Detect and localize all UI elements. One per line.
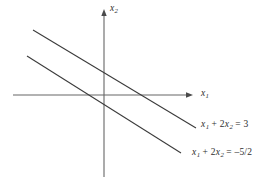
right-arrow-icon [186,92,193,97]
x2-axis-label: x2 [110,3,118,13]
up-arrow-icon [101,9,106,16]
eq-bottom-rhs: = –5/2 [224,147,252,157]
eq-top-lhs-var: x [201,119,205,129]
eq-bottom-plus: + 2 [200,147,216,157]
equation-label-top: x1 + 2x2 = 3 [201,119,248,129]
x2-axis-label-sub: 2 [115,7,118,14]
x2-axis-label-var: x [110,3,114,13]
eq-top-plus: + 2 [209,119,225,129]
x1-axis-label-var: x [201,88,205,98]
equation-label-bottom: x1 + 2x2 = –5/2 [192,147,252,157]
eq-bottom-mid-sub: 2 [220,151,224,158]
eq-bottom-lhs-sub: 1 [197,151,201,158]
x2-axis [101,9,106,177]
x1-axis-label: x1 [201,88,209,98]
x1-axis-label-sub: 1 [206,92,209,99]
eq-top-rhs: = 3 [233,119,249,129]
eq-top-mid-sub: 2 [229,123,233,130]
figure-canvas: x2 x1 x1 + 2x2 = 3 x1 + 2x2 = –5/2 [0,0,269,184]
x1-axis [13,92,193,97]
eq-bottom-lhs-var: x [192,147,196,157]
eq-top-lhs-sub: 1 [206,123,210,130]
constraint-line-top [33,30,196,128]
